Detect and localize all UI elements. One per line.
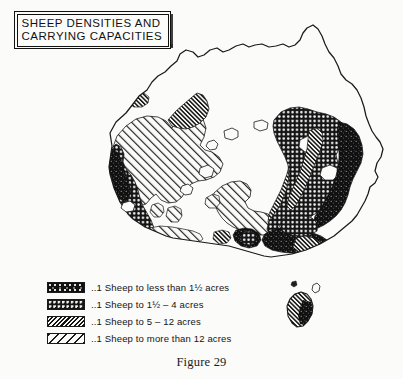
- legend-swatch-less-than-1-5-acres: [47, 282, 85, 293]
- figure-caption: Figure 29: [0, 355, 403, 370]
- legend-item: ..1 Sheep to less than 1½ acres: [47, 280, 231, 295]
- interior-lake-c: [254, 120, 268, 131]
- legend-label-1-5-to-4-acres: ..1 Sheep to 1½ – 4 acres: [91, 299, 204, 310]
- map-title-box-inner: SHEEP DENSITIES AND CARRYING CAPACITIES: [17, 14, 169, 47]
- region-sparse-hatch-wa-lobe-a: [150, 203, 164, 217]
- legend-label-less-than-1-5-acres: ..1 Sheep to less than 1½ acres: [91, 282, 229, 293]
- map-title-line-2: CARRYING CAPACITIES: [22, 30, 164, 43]
- map-legend: ..1 Sheep to less than 1½ acres ..1 Shee…: [47, 280, 231, 348]
- legend-label-more-than-12-acres: ..1 Sheep to more than 12 acres: [91, 333, 231, 344]
- legend-swatch-1-5-to-4-acres: [47, 299, 85, 310]
- legend-item: ..1 Sheep to 1½ – 4 acres: [47, 297, 231, 312]
- legend-item: ..1 Sheep to more than 12 acres: [47, 331, 231, 346]
- figure-container: SHEEP DENSITIES AND CARRYING CAPACITIES …: [0, 0, 403, 379]
- legend-swatch-5-to-12-acres: [47, 316, 85, 327]
- legend-label-5-to-12-acres: ..1 Sheep to 5 – 12 acres: [91, 316, 201, 327]
- interior-lake-a: [224, 128, 238, 140]
- map-title-line-1: SHEEP DENSITIES AND: [22, 17, 164, 30]
- legend-item: ..1 Sheep to 5 – 12 acres: [47, 314, 231, 329]
- map-title-box: SHEEP DENSITIES AND CARRYING CAPACITIES: [14, 11, 171, 49]
- legend-swatch-more-than-12-acres: [47, 333, 85, 344]
